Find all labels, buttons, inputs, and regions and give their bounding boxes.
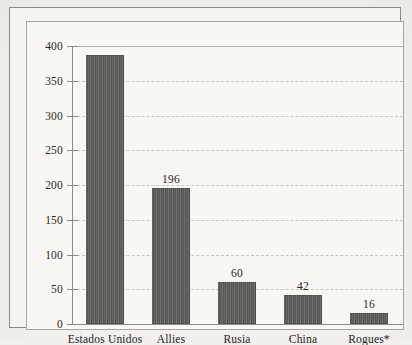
gridline-0: [72, 324, 403, 325]
bar-group: 16Rogues*: [336, 46, 402, 324]
y-axis-label-50: 50: [51, 283, 63, 295]
bar-group: 42China: [270, 46, 336, 324]
y-axis-label-350: 350: [45, 75, 63, 87]
bar-group: 196Allies: [138, 46, 204, 324]
y-axis-label-300: 300: [45, 110, 63, 122]
bar-value-label: 196: [162, 173, 180, 185]
y-axis-label-200: 200: [45, 179, 63, 191]
bar: [284, 295, 322, 324]
y-axis-label-150: 150: [45, 214, 63, 226]
plot-area: 050100150200250300350400 Estados Unidos1…: [72, 46, 402, 324]
y-axis-label-250: 250: [45, 144, 63, 156]
x-axis-category-label: China: [289, 333, 317, 345]
y-axis-label-100: 100: [45, 249, 63, 261]
x-axis-category-label: Estados Unidos: [68, 333, 143, 345]
y-axis-label-400: 400: [45, 40, 63, 52]
y-tick-0: [67, 324, 78, 325]
bar-group: Estados Unidos: [72, 46, 138, 324]
bar: [86, 55, 124, 324]
bar-group: 60Rusia: [204, 46, 270, 324]
bar: [218, 282, 256, 324]
bar-value-label: 42: [297, 280, 309, 292]
x-axis-category-label: Allies: [157, 333, 186, 345]
x-axis-category-label: Rogues*: [348, 333, 390, 345]
page-frame-border: 050100150200250300350400 Estados Unidos1…: [9, 7, 401, 328]
y-axis-label-0: 0: [57, 318, 63, 330]
bar-value-label: 16: [363, 298, 375, 310]
x-axis-category-label: Rusia: [223, 333, 250, 345]
bar: [152, 188, 190, 324]
chart-figure-box: 050100150200250300350400 Estados Unidos1…: [26, 21, 404, 330]
bar-value-label: 60: [231, 267, 243, 279]
bar: [350, 313, 388, 324]
